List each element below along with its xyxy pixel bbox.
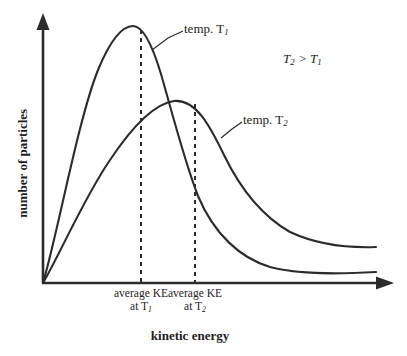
- average-ke-t2-symbol: 2: [202, 300, 206, 312]
- average-ke-t2-label: average KE at T2: [150, 287, 240, 315]
- x-axis-title: kinetic energy: [110, 329, 270, 344]
- temp-t2-label: temp. T2: [243, 113, 288, 129]
- maxwell-boltzmann-distribution-figure: temp. T1 temp. T2 T2 > T1 average KE at …: [0, 0, 407, 356]
- y-axis-title: number of particles: [16, 78, 31, 248]
- temp-t2-leader-line: [221, 122, 242, 138]
- temp-t1-label-text: temp. T: [184, 21, 224, 36]
- y-axis-arrowhead: [37, 13, 50, 30]
- temp-t1-leader-line: [152, 31, 183, 50]
- temp-t2-label-text: temp. T: [243, 112, 283, 127]
- average-ke-t2-line1: average KE: [168, 287, 222, 299]
- average-ke-t2-subscript: 2: [202, 305, 206, 314]
- temp-t2-subscript: 2: [283, 118, 287, 128]
- temperature-comparison-label: T2 > T1: [283, 52, 322, 68]
- temp-t1-symbol: 1: [224, 21, 228, 36]
- temp-t2-symbol: 2: [283, 112, 287, 127]
- temp-t1-label: temp. T1: [184, 22, 229, 38]
- comparison-t1-subscript: 1: [317, 57, 321, 67]
- average-ke-t1-line2: at T: [130, 300, 148, 312]
- average-ke-t2-line2: at T: [184, 300, 202, 312]
- curve-temp-t2: [43, 101, 376, 283]
- x-axis-arrowhead: [376, 277, 394, 290]
- comparison-operator: > T: [295, 51, 318, 66]
- temp-t1-subscript: 1: [224, 27, 228, 37]
